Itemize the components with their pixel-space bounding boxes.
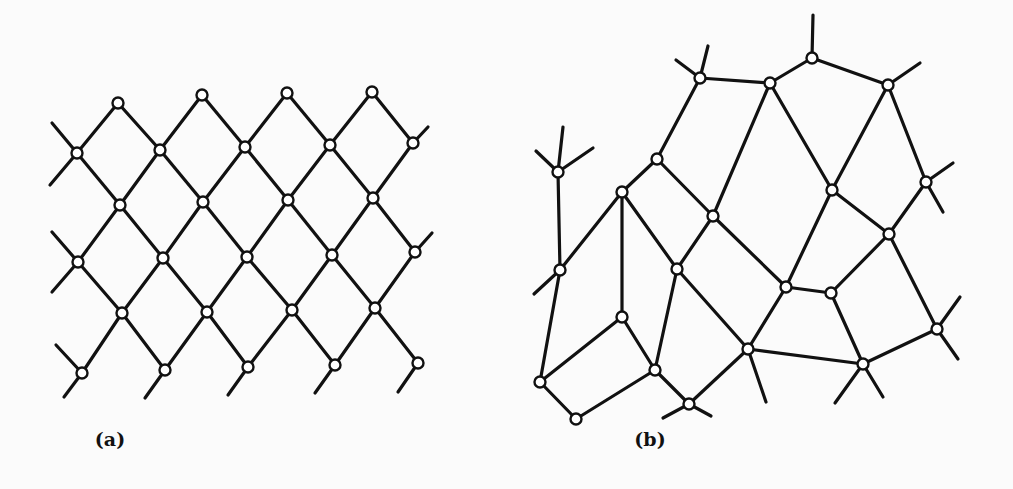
node-circle <box>242 252 253 263</box>
panel-a-edges <box>50 92 432 398</box>
node-circle <box>287 305 298 316</box>
edge <box>248 310 292 367</box>
node-circle <box>743 344 754 355</box>
edge <box>122 258 163 313</box>
edge <box>120 150 160 205</box>
panel-b-nodes <box>535 53 943 425</box>
node-circle <box>370 303 381 314</box>
edge <box>332 198 373 255</box>
edge <box>160 95 202 150</box>
node-circle <box>571 414 582 425</box>
edge <box>677 269 748 349</box>
node-circle <box>72 148 83 159</box>
edge <box>202 95 245 147</box>
node-circle <box>884 229 895 240</box>
edge <box>770 58 812 83</box>
node-circle <box>672 264 683 275</box>
edge <box>657 159 713 216</box>
edge <box>889 234 937 329</box>
edge <box>335 308 375 365</box>
node-circle <box>827 185 838 196</box>
node-circle <box>807 53 818 64</box>
node-circle <box>115 200 126 211</box>
node-circle <box>765 78 776 89</box>
edge <box>292 255 332 310</box>
node-circle <box>684 399 695 410</box>
edge <box>122 313 165 370</box>
node-circle <box>77 368 88 379</box>
edge <box>576 370 655 419</box>
edge <box>118 103 160 150</box>
node-circle <box>198 197 209 208</box>
edge <box>203 147 245 202</box>
edge <box>373 143 413 198</box>
edge <box>560 192 622 270</box>
edge <box>77 103 118 153</box>
edge <box>330 145 373 198</box>
edge <box>622 192 677 269</box>
node-circle <box>158 253 169 264</box>
edge <box>748 349 863 364</box>
edge <box>163 202 203 258</box>
node-circle <box>932 324 943 335</box>
edge <box>700 78 770 83</box>
edge <box>372 92 413 143</box>
edge <box>863 329 937 364</box>
node-circle <box>155 145 166 156</box>
edge <box>786 287 831 293</box>
node-circle <box>117 308 128 319</box>
edge <box>786 190 832 287</box>
node-circle <box>243 362 254 373</box>
node-circle <box>325 140 336 151</box>
node-circle <box>858 359 869 370</box>
edge <box>713 83 770 216</box>
node-circle <box>202 307 213 318</box>
node-circle <box>113 98 124 109</box>
edge <box>288 200 332 255</box>
edge <box>888 85 926 182</box>
edge <box>288 145 330 200</box>
edge <box>558 172 560 270</box>
edge <box>373 198 415 252</box>
edge <box>207 312 248 367</box>
node-circle <box>367 87 378 98</box>
node-circle <box>883 80 894 91</box>
panel-b-random-network: (b) <box>534 15 960 450</box>
edge <box>82 313 122 373</box>
node-circle <box>695 73 706 84</box>
panel-a-nodes <box>72 87 424 379</box>
node-circle <box>617 312 628 323</box>
edge-stub <box>835 364 863 403</box>
edge <box>245 93 287 147</box>
edge <box>78 205 120 262</box>
edge <box>831 293 863 364</box>
panel-a-regular-lattice: (a) <box>50 87 432 451</box>
panel-b-label: (b) <box>634 428 665 450</box>
node-circle <box>197 90 208 101</box>
node-circle <box>555 265 566 276</box>
node-circle <box>410 247 421 258</box>
edge <box>203 202 247 257</box>
edge <box>375 308 418 363</box>
edge <box>247 200 288 257</box>
edge <box>689 349 748 404</box>
edge-stub <box>558 127 563 172</box>
panel-b-edges <box>534 15 960 419</box>
node-circle <box>617 187 628 198</box>
node-circle <box>921 177 932 188</box>
node-circle <box>73 257 84 268</box>
edge <box>655 269 677 370</box>
node-circle <box>535 377 546 388</box>
node-circle <box>708 211 719 222</box>
node-circle <box>283 195 294 206</box>
node-circle <box>826 288 837 299</box>
edge <box>160 150 203 202</box>
edge <box>889 182 926 234</box>
edge <box>812 58 888 85</box>
node-circle <box>282 88 293 99</box>
edge <box>657 78 700 159</box>
edge <box>332 255 375 308</box>
node-circle <box>368 193 379 204</box>
edge <box>292 310 335 365</box>
edge-stub <box>748 349 766 402</box>
